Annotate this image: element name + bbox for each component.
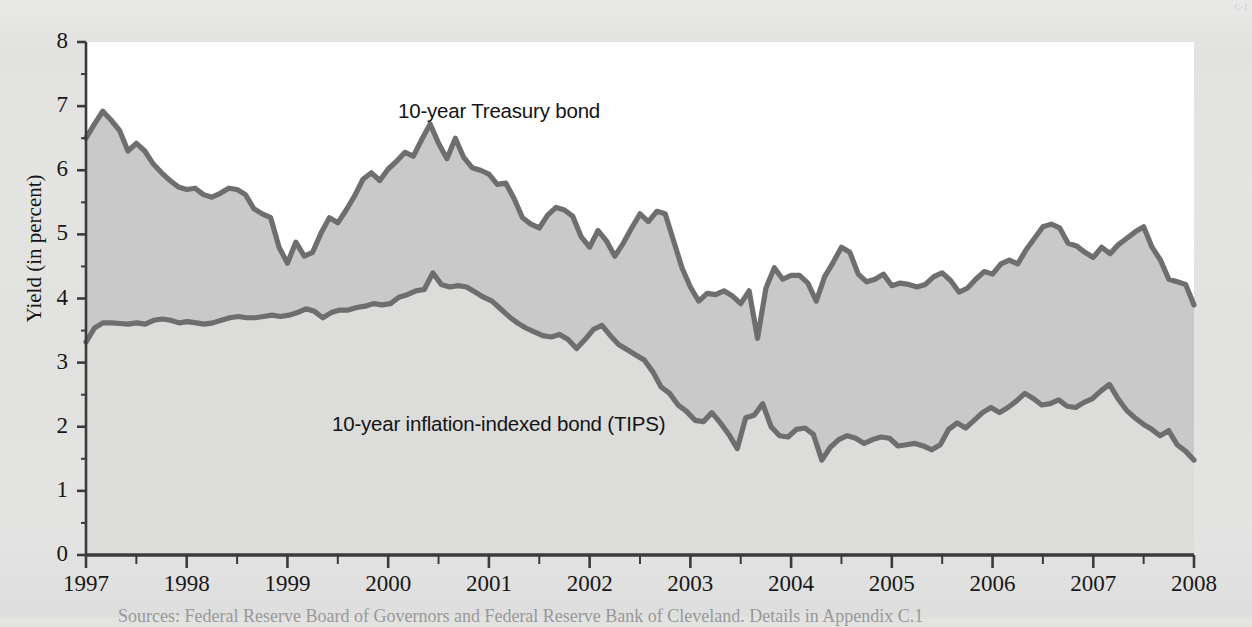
- x-tick-label: 2001: [454, 571, 524, 597]
- y-tick-label: 4: [38, 285, 68, 311]
- x-tick-label: 1998: [152, 571, 222, 597]
- x-tick-label: 2003: [655, 571, 725, 597]
- y-tick-label: 6: [38, 156, 68, 182]
- y-tick-label: 8: [38, 28, 68, 54]
- x-tick-label: 2006: [958, 571, 1028, 597]
- x-tick-label: 2007: [1058, 571, 1128, 597]
- x-tick-label: 2004: [756, 571, 826, 597]
- series-label-tips: 10-year inflation-indexed bond (TIPS): [332, 412, 665, 436]
- y-tick-label: 7: [38, 92, 68, 118]
- x-tick-label: 1999: [252, 571, 322, 597]
- y-tick-label: 3: [38, 349, 68, 375]
- y-tick-label: 5: [38, 220, 68, 246]
- x-tick-label: 2005: [857, 571, 927, 597]
- y-tick-label: 1: [38, 477, 68, 503]
- series-label-treasury: 10-year Treasury bond: [398, 99, 600, 123]
- x-tick-label: 2002: [555, 571, 625, 597]
- source-note: Sources: Federal Reserve Board of Govern…: [118, 606, 923, 627]
- x-tick-label: 2008: [1159, 571, 1229, 597]
- y-tick-label: 2: [38, 413, 68, 439]
- x-tick-label: 2000: [353, 571, 423, 597]
- y-tick-label: 0: [38, 541, 68, 567]
- x-tick-label: 1997: [51, 571, 121, 597]
